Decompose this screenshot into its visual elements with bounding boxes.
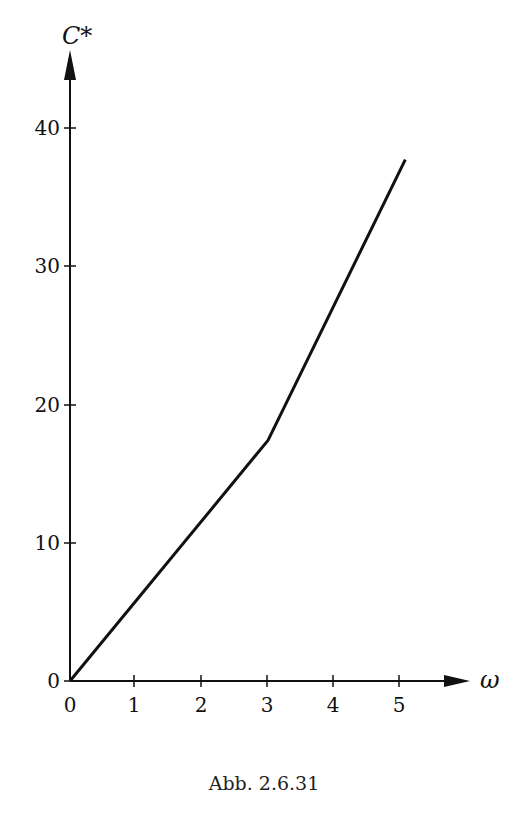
x-tick-label: 5 bbox=[393, 693, 406, 717]
x-axis-label: ω bbox=[480, 666, 500, 694]
y-tick-label: 30 bbox=[35, 254, 60, 278]
y-tick-label: 40 bbox=[35, 116, 60, 140]
y-tick-label: 0 bbox=[47, 669, 60, 693]
x-tick-label: 1 bbox=[128, 693, 141, 717]
x-tick-label: 0 bbox=[64, 693, 77, 717]
y-axis-arrow-icon bbox=[64, 50, 76, 80]
data-line bbox=[70, 160, 405, 681]
figure-caption: Abb. 2.6.31 bbox=[0, 772, 528, 794]
x-tick-label: 3 bbox=[261, 693, 274, 717]
y-axis-label: C* bbox=[62, 22, 92, 50]
x-tick-label: 4 bbox=[327, 693, 340, 717]
y-tick-label: 20 bbox=[35, 393, 60, 417]
chart: 0 10 20 30 40 0 1 2 3 4 5 C* ω bbox=[0, 0, 528, 829]
x-axis-arrow-icon bbox=[444, 675, 470, 687]
y-tick-label: 10 bbox=[35, 531, 60, 555]
x-tick-label: 2 bbox=[195, 693, 208, 717]
